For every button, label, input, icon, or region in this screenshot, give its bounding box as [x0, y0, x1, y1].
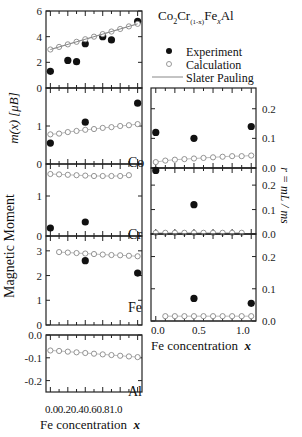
- svg-text:0.0: 0.0: [262, 228, 276, 240]
- left-xlabel: Fe concentration x: [40, 417, 140, 433]
- svg-text:0.2: 0.2: [262, 251, 276, 263]
- left-ylabel-main: Magnetic Moment: [2, 194, 18, 298]
- svg-text:0: 0: [37, 230, 43, 242]
- svg-text:0.1: 0.1: [262, 204, 276, 216]
- svg-text:0.2: 0.2: [262, 179, 276, 191]
- svg-text:6: 6: [37, 5, 43, 17]
- element-label-co: Co: [128, 155, 144, 171]
- svg-text:2: 2: [37, 270, 43, 282]
- element-label-al: Al: [128, 384, 142, 400]
- right-xtick-2: 1.0: [236, 324, 250, 336]
- compound-formula: Co2Cr(1-x)FexAl: [158, 8, 234, 26]
- svg-text:2: 2: [37, 56, 43, 68]
- svg-text:-0.2: -0.2: [25, 375, 42, 387]
- svg-text:3: 3: [37, 245, 43, 257]
- element-label-cr: Cr: [128, 227, 142, 243]
- svg-text:0.1: 0.1: [262, 283, 276, 295]
- svg-text:1: 1: [37, 294, 43, 306]
- svg-text:0: 0: [37, 158, 43, 170]
- svg-text:1: 1: [37, 120, 43, 132]
- svg-text:0.0: 0.0: [262, 315, 276, 327]
- right-xtick-1: 0.5: [192, 324, 206, 336]
- svg-text:0: 0: [37, 82, 43, 94]
- chart-canvas: 0246010101230.0-0.1-0.20.00.10.20.00.10.…: [0, 0, 302, 437]
- svg-text:1: 1: [37, 190, 43, 202]
- element-label-fe: Fe: [128, 300, 142, 316]
- svg-text:-0.1: -0.1: [25, 352, 42, 364]
- svg-text:0.2: 0.2: [262, 103, 276, 115]
- right-xtick-0: 0.0: [151, 324, 165, 336]
- right-ylabel: r = mL / ms: [277, 167, 292, 224]
- legend-slater: Slater Pauling: [186, 71, 254, 86]
- svg-text:4: 4: [37, 31, 43, 43]
- left-ylabel-unit: m(x) [μB]: [6, 92, 22, 144]
- svg-text:0.0: 0.0: [262, 162, 276, 174]
- left-xticks: 0.00.20.40.60.81.0: [45, 403, 122, 415]
- svg-text:0.0: 0.0: [28, 329, 42, 341]
- right-xlabel: Fe concentration x: [151, 338, 251, 354]
- svg-text:0.1: 0.1: [262, 132, 276, 144]
